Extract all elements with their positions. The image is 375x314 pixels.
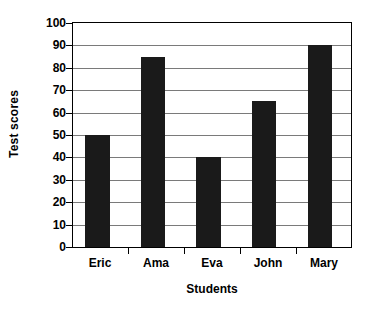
- y-axis-tick-label: 80: [30, 61, 66, 75]
- bars-layer: [73, 23, 351, 247]
- y-axis-tick-label: 70: [30, 83, 66, 97]
- x-axis-tick-label: Eva: [201, 256, 222, 270]
- bar[interactable]: [85, 135, 109, 247]
- x-axis-tick-mark: [240, 248, 241, 254]
- y-axis-tick-labels: 0102030405060708090100: [30, 22, 66, 248]
- bar-group: [129, 23, 185, 247]
- x-axis-tick-mark: [128, 248, 129, 254]
- y-axis-tick-label: 100: [30, 16, 66, 30]
- x-axis-tick-mark: [296, 248, 297, 254]
- y-axis-title-text: Test scores: [7, 90, 21, 158]
- x-axis-tick-label: John: [254, 256, 283, 270]
- bar-group: [295, 23, 351, 247]
- y-axis-tick-label: 10: [30, 218, 66, 232]
- x-axis-tick-label: Ama: [143, 256, 169, 270]
- y-axis-title: Test scores: [0, 0, 28, 248]
- bar-chart: Test scores 0102030405060708090100 EricA…: [0, 0, 375, 314]
- y-axis-tick-label: 30: [30, 173, 66, 187]
- bar[interactable]: [308, 45, 332, 247]
- bar[interactable]: [196, 157, 220, 247]
- y-axis-tick-label: 40: [30, 150, 66, 164]
- x-axis-tick-labels: EricAmaEvaJohnMary: [72, 256, 352, 276]
- plot-area: [72, 22, 352, 248]
- x-axis-tick-label: Eric: [89, 256, 112, 270]
- bar[interactable]: [141, 57, 165, 247]
- x-axis-tick-label: Mary: [310, 256, 338, 270]
- x-axis-tick-marks: [72, 248, 352, 254]
- y-axis-tick-label: 90: [30, 38, 66, 52]
- bar-group: [184, 23, 240, 247]
- y-axis-tick-label: 50: [30, 128, 66, 142]
- bar-group: [240, 23, 296, 247]
- x-axis-title: Students: [72, 282, 352, 296]
- y-axis-tick-label: 60: [30, 106, 66, 120]
- x-axis-tick-mark: [184, 248, 185, 254]
- y-axis-tick-label: 0: [30, 240, 66, 254]
- y-axis-tick-label: 20: [30, 195, 66, 209]
- bar-group: [73, 23, 129, 247]
- bar[interactable]: [252, 101, 276, 247]
